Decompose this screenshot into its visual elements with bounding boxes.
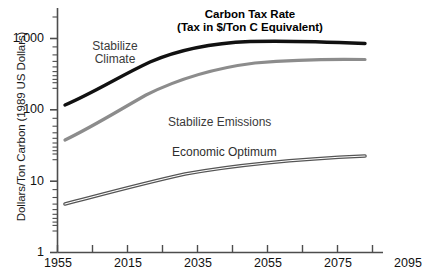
series-line-economic-optimum-outer (65, 156, 365, 204)
x-tick-label-2075: 2075 (314, 256, 362, 270)
y-axis-label: Dollars/Ton Carbon (1989 US Dollars) (15, 11, 28, 241)
x-tick-label-2055: 2055 (244, 256, 292, 270)
y-major-ticks (50, 39, 58, 253)
series-label-stabilize-emissions: Stabilize Emissions (168, 116, 271, 129)
x-tick-label-2095: 2095 (384, 256, 426, 270)
x-tick-label-1955: 1955 (34, 256, 82, 270)
y-tick-label-10: 10 (0, 174, 44, 188)
x-ticks (58, 245, 373, 253)
series-line-economic-optimum-inner (65, 156, 365, 204)
series-label-economic-optimum: Economic Optimum (172, 146, 277, 159)
y-tick-label-1000: 1,000 (0, 31, 44, 45)
x-tick-label-2035: 2035 (174, 256, 222, 270)
chart-title: Carbon Tax Rate (150, 8, 350, 21)
chart-subtitle: (Tax in $/Ton C Equivalent) (150, 21, 350, 34)
y-tick-label-100: 100 (0, 102, 44, 116)
series-label-stabilize-climate: Stabilize Climate (74, 40, 156, 67)
x-tick-label-2015: 2015 (104, 256, 152, 270)
